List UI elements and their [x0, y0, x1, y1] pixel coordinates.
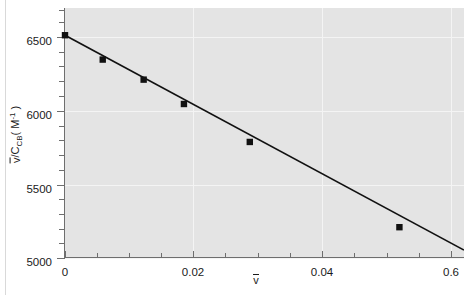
y-tick-minor — [59, 66, 65, 67]
x-tick-label-text: 0 — [62, 266, 68, 278]
x-tick-minor — [387, 253, 388, 258]
x-tick-minor — [97, 253, 98, 258]
y-axis-title-sub: CB — [15, 136, 24, 147]
x-tick-major-0.02 — [193, 251, 194, 258]
y-axis-line — [64, 8, 65, 258]
x-tick-minor — [290, 253, 291, 258]
y-tick-minor — [59, 126, 65, 127]
y-axis-title-slash: / — [9, 154, 21, 157]
x-tick-major-0.06 — [451, 251, 452, 258]
x-axis-line — [64, 257, 464, 258]
gridline-vertical-0.04 — [322, 8, 323, 258]
y-tick-minor — [59, 140, 65, 141]
x-tick-minor — [258, 253, 259, 258]
y-tick-minor — [59, 52, 65, 53]
y-tick-minor — [59, 81, 65, 82]
y-axis-title-units-close: ) — [9, 106, 21, 113]
gridline-horizontal-6000 — [65, 111, 464, 112]
x-tick-label-text: 0.6 — [443, 266, 459, 278]
y-tick-minor — [59, 214, 65, 215]
x-tick-major-0 — [65, 251, 66, 258]
x-tick-label-text: 0.04 — [311, 266, 333, 278]
x-tick-label-0.02: 0.02 — [163, 262, 223, 280]
y-axis-title-units-exp: -1 — [8, 113, 17, 120]
x-tick-label-0: 0 — [35, 262, 95, 280]
x-tick-minor — [354, 253, 355, 258]
y-tick-minor — [59, 155, 65, 156]
x-tick-minor — [225, 253, 226, 258]
y-axis-title-c: C — [9, 146, 21, 154]
x-tick-minor — [161, 253, 162, 258]
y-tick-major-6500 — [57, 37, 65, 38]
gridline-vertical-0.02 — [193, 8, 194, 258]
y-tick-label-text: 6000 — [26, 109, 52, 121]
y-axis-title-nu: v — [9, 158, 21, 164]
gridline-horizontal-6500 — [65, 37, 464, 38]
y-tick-major-5500 — [57, 185, 65, 186]
gridline-horizontal-5500 — [65, 185, 464, 186]
gridline-vertical-0.06 — [451, 8, 452, 258]
plot-area — [65, 8, 464, 258]
x-tick-label-text: 0.02 — [182, 266, 204, 278]
x-tick-minor — [419, 253, 420, 258]
y-tick-minor — [59, 199, 65, 200]
y-tick-label-text: 5500 — [26, 183, 52, 195]
x-axis-title-nu: v — [253, 274, 259, 286]
y-tick-minor — [59, 22, 65, 23]
y-tick-minor — [59, 229, 65, 230]
y-tick-major-5000 — [57, 258, 65, 259]
y-axis-title: v/CCB( M-1 ) — [8, 69, 25, 199]
x-tick-minor — [129, 253, 130, 258]
y-tick-minor — [59, 96, 65, 97]
y-tick-major-6000 — [57, 111, 65, 112]
y-axis-title-units-open: ( M — [9, 120, 21, 136]
x-tick-label-0.06: 0.6 — [421, 262, 464, 280]
y-tick-label-text: 6500 — [26, 35, 52, 47]
scatchard-plot-figure: 6500 6000 5500 5000 0 0.02 0.04 0.6 v/CC… — [0, 0, 464, 295]
x-tick-major-0.04 — [322, 251, 323, 258]
y-tick-minor — [59, 170, 65, 171]
x-tick-label-0.04: 0.04 — [292, 262, 352, 280]
y-tick-minor — [59, 243, 65, 244]
y-tick-label-6500: 6500 — [0, 31, 52, 49]
y-tick-minor — [59, 10, 65, 11]
x-axis-title: v — [226, 274, 286, 286]
gridline-horizontal-5000 — [65, 258, 464, 259]
